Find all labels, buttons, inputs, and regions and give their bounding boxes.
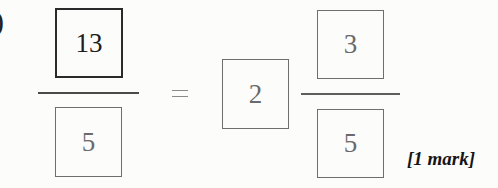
lhs-numerator-box[interactable]: 13 bbox=[55, 8, 123, 78]
lhs-denominator-box[interactable]: 5 bbox=[55, 107, 122, 177]
rhs-whole-number-value: 2 bbox=[249, 81, 263, 108]
rhs-whole-number-box[interactable]: 2 bbox=[222, 59, 289, 129]
rhs-numerator-box[interactable]: 3 bbox=[317, 10, 384, 79]
rhs-fraction-bar bbox=[301, 93, 400, 95]
rhs-denominator-value: 5 bbox=[344, 130, 358, 157]
rhs-denominator-box[interactable]: 5 bbox=[317, 109, 384, 178]
rhs-numerator-value: 3 bbox=[344, 31, 358, 58]
lhs-denominator-value: 5 bbox=[82, 129, 96, 156]
lhs-fraction-bar bbox=[38, 92, 139, 94]
question-label-fragment: ) bbox=[0, 6, 4, 36]
lhs-numerator-value: 13 bbox=[76, 30, 103, 57]
marks-label: [1 mark] bbox=[407, 148, 475, 170]
equals-sign bbox=[172, 88, 188, 98]
